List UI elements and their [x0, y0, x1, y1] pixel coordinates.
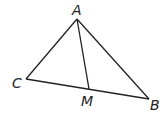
vertex-label-b: B — [150, 97, 160, 113]
vertex-label-a: A — [71, 2, 82, 18]
triangle-diagram: A B C M — [0, 0, 166, 117]
segment-ca — [26, 19, 77, 79]
vertex-label-c: C — [12, 75, 22, 91]
segment-ab — [77, 19, 149, 99]
point-label-m: M — [81, 93, 93, 109]
